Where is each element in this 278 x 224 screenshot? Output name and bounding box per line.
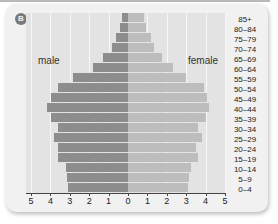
female-bar-50-54 [128,83,204,92]
age-label: 10–14 [230,165,260,175]
male-bar-40-44 [47,103,128,112]
female-bar-70-74 [128,43,154,52]
x-tick-label: 2 [83,196,95,206]
x-tick-label: 5 [25,196,37,206]
x-tick-label: 1 [103,196,115,206]
male-bar-75-79 [116,33,128,42]
male-bar-45-49 [51,93,128,102]
age-label: 45–49 [230,95,260,105]
x-tick-label: 0 [122,196,134,206]
age-label: 20–24 [230,145,260,155]
x-axis [26,193,225,194]
age-label: 75–79 [230,35,260,45]
age-label: 15–19 [230,155,260,165]
x-tick-label: 3 [180,196,192,206]
male-bar-0-4 [68,183,128,192]
gridline [225,13,226,193]
x-tick-label: 4 [200,196,212,206]
age-label: 65–69 [230,55,260,65]
female-bar-65-69 [128,53,162,62]
female-bar-25-29 [128,133,202,142]
female-bar-0-4 [128,183,188,192]
male-bar-50-54 [58,83,128,92]
male-bar-70-74 [112,43,128,52]
female-bar-80-84 [128,23,146,32]
male-bar-80-84 [120,23,128,32]
age-label: 70–74 [230,45,260,55]
x-tick-label: 3 [64,196,76,206]
female-bar-15-19 [128,153,198,162]
male-bar-20-24 [58,143,128,152]
female-bar-55-59 [128,73,186,82]
male-bar-10-14 [66,163,128,172]
gridline [31,13,32,193]
female-bar-45-49 [128,93,207,102]
female-bar-85+ [128,13,144,22]
male-bar-25-29 [54,133,128,142]
male-bar-60-64 [93,63,128,72]
x-tick-label: 4 [44,196,56,206]
age-label: 30–34 [230,125,260,135]
male-bar-65-69 [103,53,128,62]
age-label: 25–29 [230,135,260,145]
male-label: male [38,55,60,66]
female-bar-10-14 [128,163,191,172]
female-label: female [188,55,218,66]
x-tick-label: 2 [161,196,173,206]
age-label: 85+ [230,15,260,25]
female-bar-35-39 [128,113,206,122]
age-label: 55–59 [230,75,260,85]
male-bar-5-9 [67,173,128,182]
female-bar-75-79 [128,33,151,42]
female-bar-5-9 [128,173,189,182]
age-label: 80–84 [230,25,260,35]
male-bar-15-19 [58,153,128,162]
age-label: 60–64 [230,65,260,75]
age-label: 5–9 [230,175,260,185]
female-bar-60-64 [128,63,173,72]
age-label: 35–39 [230,115,260,125]
female-bar-30-34 [128,123,198,132]
age-label: 0–4 [230,185,260,195]
male-bar-35-39 [51,113,128,122]
female-bar-20-24 [128,143,196,152]
top-rule [0,0,270,2]
age-label: 40–44 [230,105,260,115]
age-label: 50–54 [230,85,260,95]
male-bar-55-59 [73,73,128,82]
female-bar-40-44 [128,103,209,112]
x-tick-label: 1 [141,196,153,206]
plot-area [26,13,225,193]
x-tick-label: 5 [219,196,231,206]
male-bar-30-34 [58,123,128,132]
